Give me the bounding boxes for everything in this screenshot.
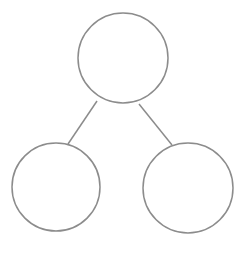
diagram-svg <box>0 0 249 254</box>
edges-group <box>68 101 172 145</box>
node-right-child <box>143 143 233 233</box>
node-root <box>78 13 168 103</box>
edge-root-to-left-child <box>68 101 97 144</box>
node-left-child <box>12 143 100 231</box>
nodes-group <box>12 13 233 233</box>
edge-root-to-right-child <box>139 104 172 145</box>
tree-diagram <box>0 0 249 254</box>
